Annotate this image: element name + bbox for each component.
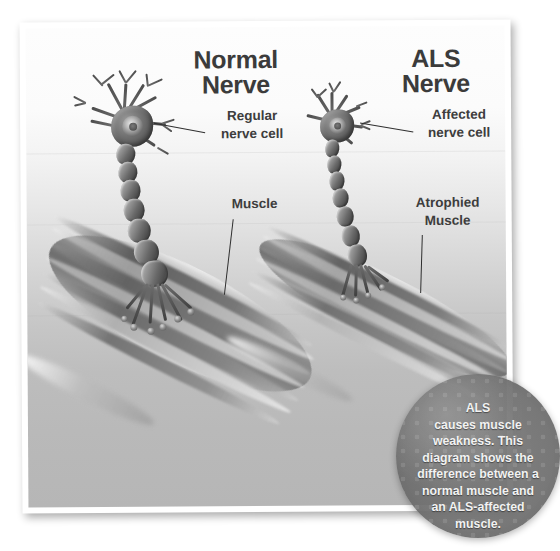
dendrite-branch [356,101,368,107]
axon-segment [332,188,348,207]
background-band [26,150,505,154]
synaptic-bouton [174,316,181,323]
synaptic-bouton [147,328,154,335]
dendrite [90,120,112,127]
panel-title-normal-nerve: Normal Nerve [166,47,306,98]
synaptic-bouton [121,316,127,322]
dendrite-branch [118,70,126,83]
badge-caption-text: ALS causes muscle weakness. This diagram… [406,400,550,532]
synaptic-bouton [379,284,385,290]
nucleolus [334,123,341,130]
synaptic-bouton [365,292,371,298]
leader-line-atrophied-muscle [420,235,423,293]
label-atrophied-muscle: Atrophied Muscle [393,194,503,231]
dendrite-branch [147,78,162,86]
synaptic-bouton [353,297,359,303]
nucleolus [129,123,137,131]
dendrite-branch [157,147,169,155]
leader-line-muscle [224,219,234,295]
synaptic-bouton [130,324,137,331]
panel-title-als-nerve: ALS Nerve [371,46,501,97]
dendrite-branch [74,102,86,107]
dendrite-branch [92,74,104,86]
synaptic-bouton [340,295,346,301]
label-muscle: Muscle [205,195,305,214]
dendrite-branch [145,74,148,87]
label-regular-nerve-cell: Regular nerve cell [197,107,307,144]
dendrite-branch [125,70,137,84]
synaptic-bouton [159,324,166,331]
caption-badge: ALS causes muscle weakness. This diagram… [396,374,560,538]
label-affected-nerve-cell: Affected nerve cell [404,105,507,142]
synaptic-bouton [187,308,194,315]
